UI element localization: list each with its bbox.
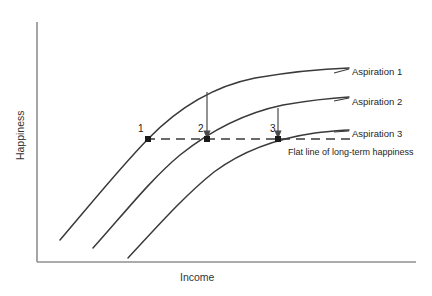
- series-label-aspiration-2: Aspiration 2: [352, 97, 402, 107]
- annotation-arrow-1: [203, 92, 210, 139]
- y-axis-title: Happiness: [15, 95, 26, 175]
- data-point-marker-2: [204, 136, 210, 142]
- leader-line-aspiration-1: [334, 69, 349, 73]
- chart-figure: Happiness Income Aspiration 1 Aspiration…: [0, 0, 432, 296]
- point-label-3: 3: [270, 124, 276, 134]
- series-label-aspiration-1: Aspiration 1: [352, 67, 402, 77]
- point-label-1: 1: [138, 124, 144, 134]
- baseline-caption: Flat line of long-term happiness: [288, 148, 414, 157]
- data-point-marker-1: [145, 136, 151, 142]
- series-label-aspiration-3: Aspiration 3: [352, 129, 402, 139]
- series-curve-aspiration-2: [93, 97, 349, 248]
- x-axis-title: Income: [180, 272, 214, 283]
- point-label-2: 2: [198, 124, 204, 134]
- data-point-marker-3: [275, 136, 281, 142]
